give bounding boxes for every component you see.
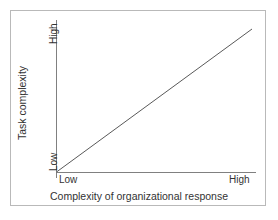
plot-area [0,0,278,220]
figure: High Low Low High Task complexity Comple… [0,0,278,220]
chart-svg [0,0,278,220]
y-axis-tick-low: Low [48,153,59,171]
x-axis-tick-high: High [229,174,250,185]
x-axis-title: Complexity of organizational response [0,190,278,202]
x-axis-tick-low: Low [59,174,77,185]
y-axis-title: Task complexity [16,66,28,140]
y-axis-tick-high: High [48,23,59,44]
trend-line [57,29,253,172]
